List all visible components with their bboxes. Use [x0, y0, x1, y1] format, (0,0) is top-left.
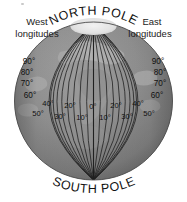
east-degree-label-0: 90° — [152, 57, 164, 66]
lower-degree-label-2: 10° — [76, 113, 87, 122]
upper-degree-label-0: 40° — [42, 99, 53, 108]
lower-degree-label-5: 50° — [143, 109, 154, 118]
west-degree-label-0: 90° — [23, 57, 35, 66]
longitude-globe-figure: NORTH POLE SOUTH POLE West longitudes Ea… — [0, 0, 187, 202]
east-degree-label-2: 70° — [154, 79, 166, 88]
west-label-line1: West — [26, 16, 48, 27]
west-degree-label-2: 70° — [21, 79, 33, 88]
west-degree-label-3: 60° — [24, 91, 36, 100]
globe-diagram-svg: NORTH POLE SOUTH POLE West longitudes Ea… — [0, 0, 187, 202]
east-degree-label-1: 80° — [154, 68, 166, 77]
west-degree-label-1: 80° — [21, 68, 33, 77]
upper-degree-label-3: 20° — [110, 101, 121, 110]
upper-degree-label-4: 40° — [132, 99, 143, 108]
north-polar-cap — [71, 18, 117, 35]
upper-degree-label-2: 0° — [89, 102, 96, 111]
globe-limb-shading — [15, 22, 173, 180]
lower-degree-label-1: 30° — [54, 112, 65, 121]
lower-degree-label-4: 30° — [121, 112, 132, 121]
east-label-line2: longitudes — [128, 28, 172, 39]
west-label-line2: longitudes — [15, 28, 59, 39]
east-label-line1: East — [142, 16, 161, 27]
upper-degree-label-1: 20° — [64, 101, 75, 110]
lower-degree-label-0: 50° — [32, 109, 43, 118]
lower-degree-label-3: 10° — [99, 113, 110, 122]
scan-artifact-speck — [21, 3, 24, 5]
east-degree-label-3: 60° — [151, 91, 163, 100]
globe-sphere — [15, 18, 173, 180]
